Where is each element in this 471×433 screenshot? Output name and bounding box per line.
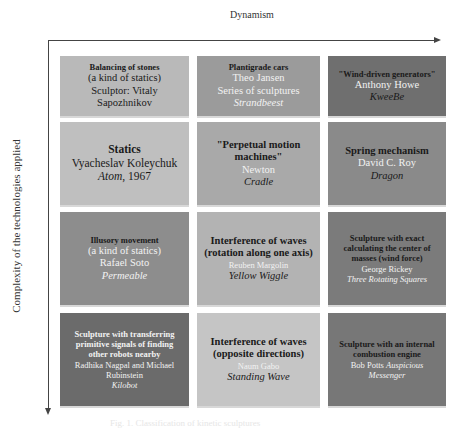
cell-subtitle: (a kind of statics): [88, 245, 161, 257]
cell-artist-work-line: Bob Potts Auspicious Messenger: [334, 360, 440, 380]
cell-perpetual-motion-machines: "Perpetual motion machines" Newton Cradl…: [197, 122, 320, 205]
cell-work: Three Rotating Squares: [347, 274, 427, 284]
cell-work: Kilobot: [112, 380, 138, 390]
cell-artist: Bob Potts: [351, 360, 384, 370]
x-axis-arrow-icon: [434, 37, 441, 43]
cell-work: Standing Wave: [227, 371, 289, 383]
cell-interference-rotation: Interference of waves (rotation along on…: [197, 212, 320, 305]
cell-balancing-of-stones: Balancing of stones (a kind of statics) …: [60, 56, 189, 116]
cell-interference-opposite: Interference of waves (opposite directio…: [197, 313, 320, 406]
cell-artist: Vyacheslav Koleychuk: [72, 157, 178, 171]
cell-statics: Statics Vyacheslav Koleychuk Atom, 1967: [60, 122, 189, 205]
cell-work: Cradle: [244, 176, 273, 188]
cell-title: Statics: [108, 143, 141, 157]
cell-title: Sculpture with transferring primitive si…: [66, 329, 183, 359]
cell-work: Atom: [98, 170, 122, 182]
cell-artist: Newton: [242, 164, 275, 176]
cell-work: Permeable: [102, 270, 147, 282]
cell-subtitle: (a kind of statics): [88, 72, 161, 84]
cell-internal-combustion: Sculpture with an internal combustion en…: [328, 313, 446, 406]
x-axis-line: [48, 40, 436, 41]
y-axis-line: [48, 40, 49, 410]
cell-work: Strandbeest: [234, 97, 284, 109]
cell-work: Yellow Wiggle: [229, 270, 288, 282]
cell-artist: Naum Gabo: [238, 361, 279, 371]
cell-artist: Sculptor: Vitaly Sapozhnikov: [66, 85, 183, 110]
cell-artist: David C. Roy: [358, 157, 416, 169]
cell-title: "Perpetual motion machines": [203, 139, 314, 164]
cell-artist: George Rickey: [361, 264, 412, 274]
cell-year: , 1967: [122, 170, 151, 182]
cell-artist: Reuben Margolin: [229, 260, 289, 270]
cell-work: Dragon: [371, 170, 404, 182]
cell-artist: Radhika Nagpal and Michael Rubinstein: [66, 360, 183, 380]
cell-title: Balancing of stones: [90, 62, 160, 72]
cell-exact-center-of-masses: Sculpture with exact calculating the cen…: [328, 212, 446, 305]
cell-title: Spring mechanism: [345, 145, 429, 157]
cell-spring-mechanism: Spring mechanism David C. Roy Dragon: [328, 122, 446, 205]
cell-title: Illusory movement: [90, 235, 158, 245]
cell-artist: Rafael Soto: [100, 257, 149, 269]
cell-wind-driven-generators: "Wind-driven generators" Anthony Howe Kw…: [328, 56, 446, 116]
cell-title: Plantigrade cars: [229, 62, 289, 72]
cell-kilobot: Sculpture with transferring primitive si…: [60, 313, 189, 406]
cell-illusory-movement: Illusory movement (a kind of statics) Ra…: [60, 212, 189, 305]
y-axis-arrow-icon: [45, 408, 51, 415]
cell-title: Interference of waves (opposite directio…: [203, 336, 314, 361]
cell-work: KweeBe: [370, 91, 404, 103]
cell-title: "Wind-driven generators": [339, 69, 436, 79]
figure-caption: Fig. 1. Classification of kinetic sculpt…: [110, 418, 260, 428]
cell-work-line: Atom, 1967: [98, 170, 151, 184]
cell-extra: Series of sculptures: [217, 85, 299, 97]
x-axis-title: Dynamism: [230, 9, 274, 20]
cell-title: Sculpture with exact calculating the cen…: [334, 233, 440, 263]
y-axis-title: Complexity of the technologies applied: [10, 139, 22, 313]
cell-artist: Anthony Howe: [355, 79, 419, 91]
cell-title: Interference of waves (rotation along on…: [203, 235, 314, 260]
cell-plantigrade-cars: Plantigrade cars Theo Jansen Series of s…: [197, 56, 320, 116]
cell-artist: Theo Jansen: [232, 72, 284, 84]
cell-title: Sculpture with an internal combustion en…: [334, 339, 440, 359]
